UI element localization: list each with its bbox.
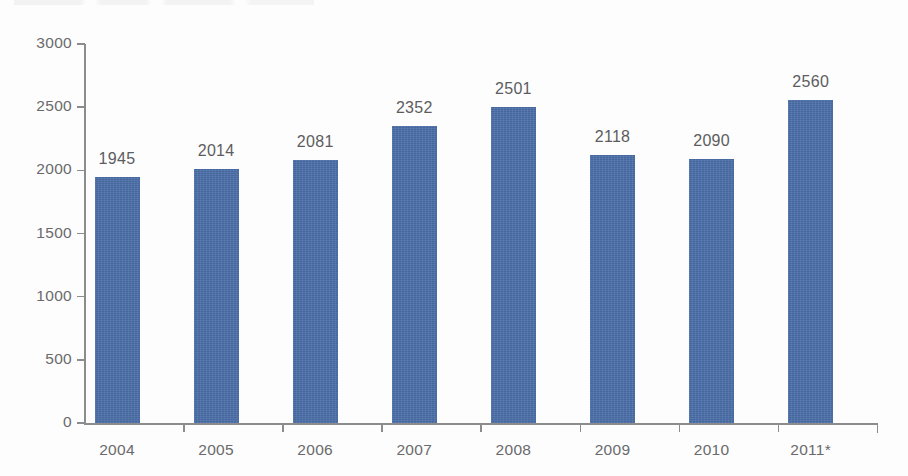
x-axis-tick-label: 2006 (265, 441, 365, 459)
bar[interactable] (689, 159, 734, 423)
bar-value-label: 2560 (761, 73, 861, 91)
x-axis-tick (580, 423, 582, 432)
bar[interactable] (491, 107, 536, 423)
y-axis-tick (77, 43, 85, 45)
bar-value-label: 2090 (662, 132, 762, 150)
bar-value-label: 2014 (166, 142, 266, 160)
y-axis-tick (77, 106, 85, 108)
bar-chart-figure: 050010001500200025003000 200420052006200… (0, 0, 908, 476)
x-axis-tick-label: 2011* (761, 441, 861, 459)
x-axis-tick (282, 423, 284, 432)
y-axis-tick-label: 1500 (2, 224, 72, 242)
y-axis-tick (77, 233, 85, 235)
x-axis-tick-label: 2005 (166, 441, 266, 459)
y-axis-tick (77, 296, 85, 298)
bar[interactable] (590, 155, 635, 423)
bar[interactable] (788, 100, 833, 423)
y-axis-tick-label: 0 (2, 413, 72, 431)
x-axis-tick-label: 2007 (364, 441, 464, 459)
x-axis-tick (480, 423, 482, 432)
bar[interactable] (392, 126, 437, 423)
x-axis-tick-label: 2008 (463, 441, 563, 459)
bar[interactable] (194, 169, 239, 423)
y-axis-tick-label: 2000 (2, 160, 72, 178)
y-axis-tick-label: 1000 (2, 287, 72, 305)
y-axis-tick (77, 422, 85, 424)
x-axis-tick (381, 423, 383, 432)
y-axis-tick-label: 500 (2, 350, 72, 368)
bar-value-label: 2081 (265, 133, 365, 151)
y-axis-tick-label: 3000 (2, 34, 72, 52)
x-axis-tick-label: 2004 (67, 441, 167, 459)
x-axis-tick-label: 2009 (563, 441, 663, 459)
plot-area: 050010001500200025003000 200420052006200… (0, 0, 908, 476)
bar[interactable] (293, 160, 338, 423)
x-axis-tick-label: 2010 (662, 441, 762, 459)
bar-value-label: 2352 (364, 99, 464, 117)
x-axis-tick (778, 423, 780, 432)
x-axis-end-tick (877, 423, 879, 433)
y-axis-tick (77, 170, 85, 172)
bar-value-label: 1945 (67, 150, 167, 168)
bar-value-label: 2501 (463, 80, 563, 98)
y-axis-tick-label: 2500 (2, 97, 72, 115)
bar-value-label: 2118 (563, 128, 663, 146)
y-axis-tick (77, 359, 85, 361)
bar[interactable] (95, 177, 140, 423)
x-axis-tick (679, 423, 681, 432)
x-axis-tick (183, 423, 185, 432)
